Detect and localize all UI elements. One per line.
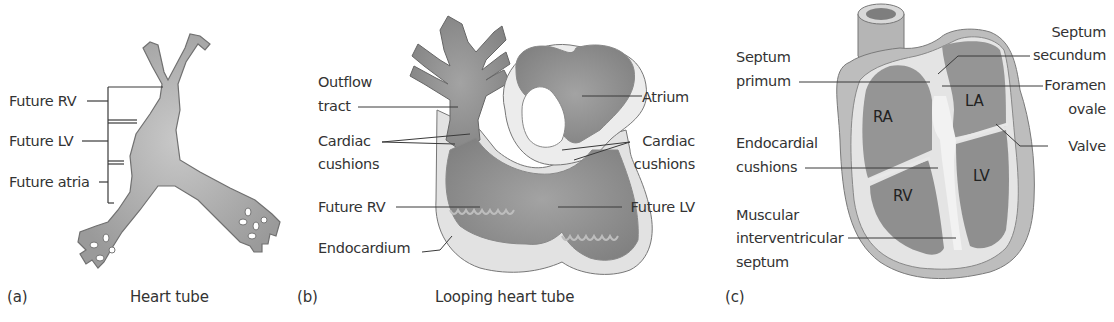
- heart-tube-illustration: [0, 0, 300, 322]
- chamber-label-la: LA: [965, 92, 983, 110]
- label-septum-primum-2: primum: [736, 71, 791, 91]
- label-interventricular: interventricular: [736, 228, 843, 248]
- label-future-rv: Future RV: [9, 91, 76, 111]
- panel-b-looping-heart-tube: Outflow tract Cardiac cushions Future RV…: [300, 0, 720, 322]
- label-endocardial: Endocardial: [736, 133, 818, 153]
- label-valve: Valve: [1068, 136, 1106, 156]
- label-endocardium: Endocardium: [318, 238, 410, 258]
- panel-b-letter: (b): [297, 286, 318, 308]
- label-cushions-c: cushions: [736, 157, 797, 177]
- label-future-lv-b: Future LV: [631, 197, 696, 217]
- label-cushions-left: cushions: [318, 154, 379, 174]
- label-muscular: Muscular: [736, 205, 799, 225]
- label-future-atria: Future atria: [9, 172, 90, 192]
- label-future-rv-b: Future RV: [318, 197, 385, 217]
- label-septum-secundum-2: secundum: [1033, 45, 1106, 65]
- label-cushions-right: cushions: [634, 154, 695, 174]
- label-septum-primum-1: Septum: [736, 47, 791, 67]
- label-septum: septum: [736, 252, 789, 272]
- chamber-label-lv: LV: [973, 167, 989, 185]
- label-outflow: Outflow: [318, 72, 372, 92]
- panel-c-letter: (c): [725, 286, 744, 308]
- panel-a-caption: Heart tube: [130, 286, 209, 308]
- chamber-label-ra: RA: [873, 108, 892, 126]
- panel-c-four-chamber-heart: RA LA RV LV Septum primum Endocardial cu…: [720, 0, 1114, 322]
- chamber-label-rv: RV: [893, 187, 912, 205]
- panel-b-caption: Looping heart tube: [435, 286, 574, 308]
- label-cardiac-left: Cardiac: [318, 131, 371, 151]
- label-tract: tract: [318, 96, 351, 116]
- label-foramen: Foramen: [1044, 75, 1106, 95]
- label-cardiac-right: Cardiac: [642, 131, 695, 151]
- label-ovale: ovale: [1068, 99, 1106, 119]
- panel-a-heart-tube: Future RV Future LV Future atria (a) Hea…: [0, 0, 300, 322]
- label-atrium: Atrium: [642, 87, 689, 107]
- panel-a-letter: (a): [7, 286, 27, 308]
- label-future-lv: Future LV: [9, 131, 74, 151]
- label-septum-secundum-1: Septum: [1051, 22, 1106, 42]
